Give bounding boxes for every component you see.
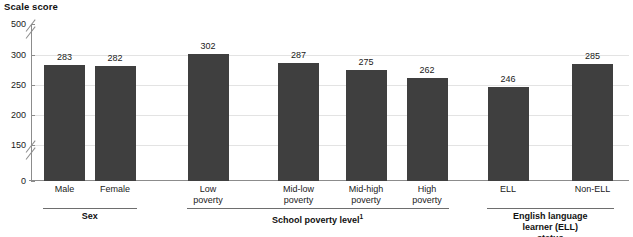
bar	[346, 70, 387, 181]
footnote-marker: 1	[359, 213, 363, 220]
bar-value-label: 285	[585, 51, 600, 61]
axis-break-lower-icon	[26, 152, 39, 167]
bar-value-label: 287	[291, 50, 306, 60]
category-label: Mid-high poverty	[349, 184, 384, 206]
y-axis-title: Scale score	[4, 1, 58, 12]
y-axis-tick-label: 250	[0, 80, 26, 90]
category-label: Mid-low poverty	[283, 184, 314, 206]
category-label: Non-ELL	[575, 184, 611, 195]
axis-break-upper-icon	[26, 31, 39, 46]
group-rule	[487, 208, 615, 209]
y-axis-tick-mark	[31, 115, 35, 116]
bar	[44, 65, 85, 181]
bar	[95, 66, 136, 181]
bar-chart: Scale score 5003002502001500 28328230228…	[0, 0, 633, 237]
y-axis-tick-label: 300	[0, 50, 26, 60]
y-axis-tick-label: 0	[0, 176, 26, 186]
y-axis-tick-mark	[31, 181, 35, 182]
group-rule	[187, 208, 449, 209]
group-label: Sex	[82, 211, 98, 222]
bar	[407, 78, 448, 181]
y-axis-tick-label: 500	[0, 19, 26, 29]
category-label: ELL	[500, 184, 516, 195]
category-label: Female	[100, 184, 130, 195]
y-axis-tick-mark	[31, 55, 35, 56]
y-axis-tick-label: 200	[0, 110, 26, 120]
y-axis-tick-label: 150	[0, 140, 26, 150]
bar	[278, 63, 319, 181]
y-axis-tick-mark	[31, 85, 35, 86]
bar-value-label: 302	[200, 41, 215, 51]
bar-value-label: 283	[57, 52, 72, 62]
bar-value-label: 282	[107, 53, 122, 63]
bar	[488, 87, 529, 181]
bar-value-label: 262	[419, 65, 434, 75]
bar-value-label: 246	[500, 74, 515, 84]
group-rule	[43, 208, 137, 209]
category-label: Male	[55, 184, 75, 195]
bar	[188, 54, 229, 181]
bar-value-label: 275	[358, 57, 373, 67]
group-label: School poverty level1	[272, 211, 363, 226]
category-label: Low poverty	[193, 184, 223, 206]
category-label: High poverty	[412, 184, 442, 206]
bar	[572, 64, 613, 181]
group-label: English language learner (ELL) status	[509, 211, 592, 237]
